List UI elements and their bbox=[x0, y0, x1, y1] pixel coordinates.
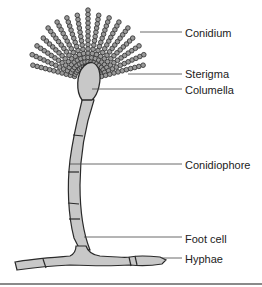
conidiophore-stalk bbox=[68, 92, 94, 250]
bottom-rule bbox=[0, 283, 262, 285]
conidiophore-diagram: ConidiumSterigmaColumellaConidiophoreFoo… bbox=[0, 0, 262, 287]
label-conidium: Conidium bbox=[185, 27, 231, 39]
hyphae bbox=[15, 246, 166, 270]
label-sterigma: Sterigma bbox=[185, 68, 229, 80]
label-columella: Columella bbox=[185, 84, 234, 96]
label-foot-cell: Foot cell bbox=[185, 233, 227, 245]
label-conidiophore: Conidiophore bbox=[185, 159, 250, 171]
label-hyphae: Hyphae bbox=[185, 253, 223, 265]
